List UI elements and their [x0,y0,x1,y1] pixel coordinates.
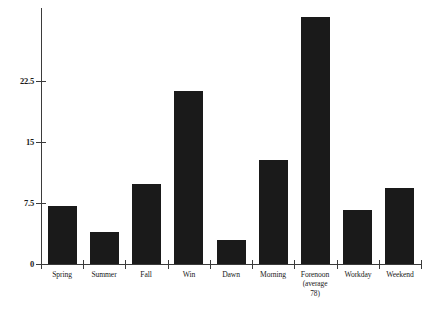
bar [132,184,161,264]
bar [385,188,414,264]
x-axis-label-note: 78) [294,289,336,298]
y-tick-label: 22.5 [0,76,34,86]
x-axis-label: Dawn [210,270,252,279]
y-tick-label: 7.5 [0,198,34,208]
bars-layer [41,8,421,264]
bar [174,91,203,264]
x-axis-label: Workday [337,270,379,279]
x-axis-line [41,264,421,265]
x-axis-label-text: Weekend [386,270,413,279]
x-axis-label: Forenoon(average78) [294,270,336,298]
x-axis-label: Fall [125,270,167,279]
bar [343,210,372,264]
x-axis-label: Weekend [379,270,421,279]
x-axis-label-text: Dawn [222,270,240,279]
y-tick-label: 15 [0,137,34,147]
x-axis-label-text: Fall [140,270,151,279]
bar [48,206,77,264]
x-axis-label: Win [168,270,210,279]
x-axis-label: Spring [41,270,83,279]
x-axis-label: Summer [83,270,125,279]
x-axis-label-text: Win [183,270,195,279]
x-axis-label-text: Morning [260,270,286,279]
bar [90,232,119,264]
x-axis-label-text: Forenoon [301,270,329,279]
x-axis-label-text: Spring [52,270,72,279]
x-axis-label-text: Summer [91,270,116,279]
bar [217,240,246,264]
bar [301,17,330,264]
y-tick-label: 0 [0,259,34,269]
x-tick-mark [421,260,422,269]
bar [259,160,288,264]
bar-chart: 07.51522.5 SpringSummerFallWinDawnMornin… [0,0,431,315]
x-axis-label-text: Workday [345,270,372,279]
x-axis-label-note: (average [294,279,336,288]
x-axis-label: Morning [252,270,294,279]
